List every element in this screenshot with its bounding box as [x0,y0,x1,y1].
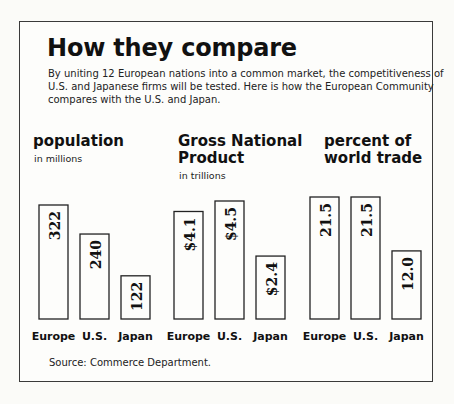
gnp-category-label: Europe [167,330,211,343]
gnp-value-label: $2.4 [264,262,280,296]
trade-category-label: Europe [303,330,347,343]
gnp-value-label: $4.5 [223,207,239,241]
trade-value-label: 21.5 [359,203,375,237]
trade-category-label: Japan [388,330,424,343]
population-category-label: Europe [32,330,76,343]
trade-value-label: 12.0 [400,257,416,291]
population-category-label: U.S. [82,330,107,343]
trade-category-label: U.S. [353,330,378,343]
population-value-label: 122 [129,282,145,311]
gnp-category-label: U.S. [217,330,242,343]
gnp-value-label: $4.1 [182,217,198,251]
population-value-label: 240 [88,240,104,269]
population-value-label: 322 [47,211,63,240]
population-category-label: Japan [117,330,153,343]
bar-charts: 322Europe240U.S.122Japan$4.1Europe$4.5U.… [0,0,454,404]
gnp-category-label: Japan [252,330,288,343]
trade-value-label: 21.5 [318,203,334,237]
